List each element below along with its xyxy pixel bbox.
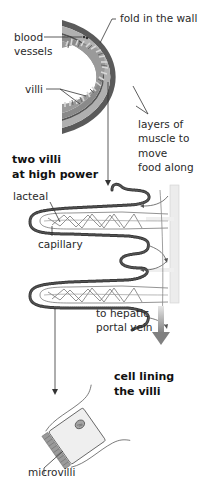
label-hepatic-1: to hepatic bbox=[96, 307, 149, 320]
heading-high-power: at high power bbox=[12, 168, 98, 182]
small-intestine-diagram: fold in the wall blood vessels villi lay… bbox=[0, 0, 206, 485]
label-fold-in-wall: fold in the wall bbox=[120, 12, 197, 25]
label-capillary: capillary bbox=[38, 238, 83, 251]
label-muscle-4: food along bbox=[138, 161, 194, 174]
label-blood-vessels-1: blood bbox=[14, 31, 43, 44]
arrow-down-icon bbox=[105, 180, 111, 186]
label-hepatic-2: portal vein bbox=[96, 321, 152, 334]
heading-cell-lining: cell lining bbox=[114, 370, 174, 384]
label-microvilli: microvilli bbox=[28, 466, 75, 479]
label-muscle-1: layers of bbox=[138, 118, 183, 131]
diagram-graphics bbox=[0, 0, 206, 485]
label-muscle-3: move bbox=[138, 147, 167, 160]
heading-two-villi: two villi bbox=[12, 153, 61, 167]
label-blood-vessels-2: vessels bbox=[14, 45, 52, 58]
label-muscle-2: muscle to bbox=[138, 132, 189, 145]
label-lacteal: lacteal bbox=[13, 190, 48, 203]
arrow-down-icon bbox=[52, 389, 58, 395]
label-villi: villi bbox=[25, 83, 43, 96]
heading-the-villi: the villi bbox=[114, 385, 161, 399]
